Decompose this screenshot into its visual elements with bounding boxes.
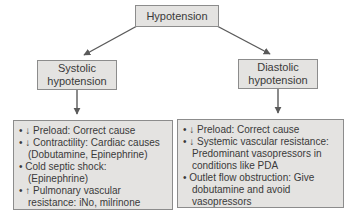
hypotension-flowchart: Hypotension Systolic hypotension Diastol…: [0, 0, 347, 214]
node-hypotension: Hypotension: [135, 5, 219, 27]
diastolic-details-box: • ↓ Preload: Correct cause • ↓ Systemic …: [177, 119, 344, 208]
systolic-details-box: • ↓ Preload: Correct cause • ↓ Contracti…: [13, 120, 173, 210]
arrow-root-to-systolic: [84, 26, 137, 55]
list-item: • Cold septic shock: (Epinephrine): [19, 161, 169, 185]
list-item: • ↑ Pulmonary vascular resistance: iNo, …: [19, 185, 169, 209]
list-item: • ↓ Systemic vascular resistance: Predom…: [183, 136, 340, 172]
node-diastolic-hypotension: Diastolic hypotension: [238, 59, 318, 89]
list-item: • ↓ Preload: Correct cause: [183, 124, 340, 136]
list-item: • ↓ Preload: Correct cause: [19, 125, 169, 137]
list-item: • ↓ Contractility: Cardiac causes (Dobut…: [19, 137, 169, 161]
list-item: • Outlet flow obstruction: Give dobutami…: [183, 172, 340, 208]
node-systolic-hypotension: Systolic hypotension: [37, 60, 117, 90]
arrow-root-to-diastolic: [217, 26, 270, 54]
